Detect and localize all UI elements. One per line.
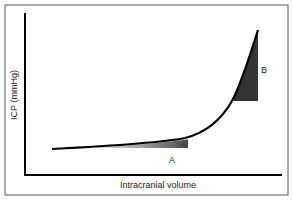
y-axis-label: ICP (mmHg) — [9, 70, 19, 120]
region-a-label: A — [169, 155, 175, 165]
x-axis-label: Intracranial volume — [120, 180, 196, 190]
icp-volume-diagram: A B Intracranial volume ICP (mmHg) — [0, 0, 293, 200]
region-b-label: B — [261, 65, 267, 75]
